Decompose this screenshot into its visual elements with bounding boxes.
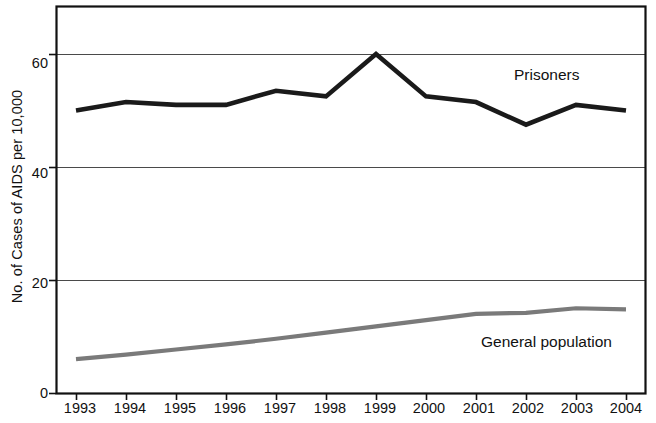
plot-frame <box>57 7 646 394</box>
plot-area <box>0 0 656 423</box>
aids-cases-line-chart: No. of Cases of AIDS per 10,000 60 40 20… <box>0 0 656 423</box>
series-line-general-population <box>76 308 626 359</box>
series-line-prisoners <box>76 54 626 125</box>
gridlines <box>49 55 646 394</box>
series-lines <box>76 54 626 359</box>
